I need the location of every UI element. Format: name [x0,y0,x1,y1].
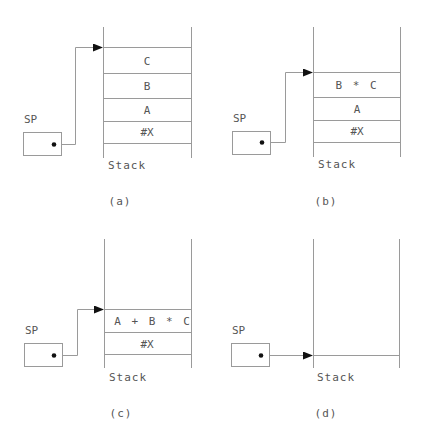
panel-a-sp-arrow [62,48,102,145]
panel-a-cell-2: A [144,104,151,117]
panel-b-sp-label: SP [233,112,246,125]
panel-c-pointer-dot [52,353,57,358]
panel-a-cell-1: B [144,80,151,93]
panel-a-cell-3: #X [140,126,153,139]
panel-d-caption: (d) [315,407,338,420]
panel-b-cell-1: A [354,103,361,116]
panel-d-stack [313,239,400,368]
panel-d-stack-label: Stack [317,371,355,384]
panel-a-pointer-dot [52,142,57,147]
panel-b-cell-2: #X [350,125,363,138]
panel-d-pointer-dot [259,353,264,358]
panel-a-stack-label: Stack [108,159,146,172]
panel-c-caption: (c) [110,407,133,420]
panel-a-caption: (a) [109,195,132,208]
panel-a-sp-label: SP [24,113,37,126]
panel-c-cell-1: #X [140,338,153,351]
panel-b-stack-label: Stack [318,158,356,171]
panel-c-sp-box [25,344,63,367]
panel-a-cell-0: C [144,55,151,68]
panel-c-stack-label: Stack [109,371,147,384]
panel-c-cell-0: A + B * C [114,315,192,328]
panel-b-stack [313,27,401,157]
stack-diagram [0,0,421,439]
panel-b-sp-box [233,132,271,155]
panel-b-sp-arrow [271,73,312,143]
panel-b-caption: (b) [315,195,338,208]
panel-b-cell-0: B * C [335,79,378,92]
panel-c-sp-arrow [63,310,103,356]
panel-b-pointer-dot [260,140,265,145]
panel-d-sp-box [232,344,270,367]
panel-c-sp-label: SP [25,324,38,337]
panel-d-sp-label: SP [232,324,245,337]
